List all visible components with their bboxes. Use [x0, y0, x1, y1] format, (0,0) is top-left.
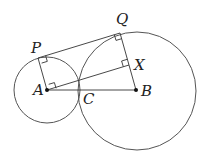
label-p: P	[30, 39, 42, 57]
label-a: A	[31, 81, 44, 99]
geometry-diagram: P Q X A B C	[0, 0, 208, 160]
label-q: Q	[116, 10, 128, 28]
diagram-canvas: P Q X A B C	[0, 0, 208, 160]
segment-ax	[47, 65, 129, 90]
label-x: X	[133, 56, 146, 74]
point-a	[45, 88, 49, 92]
label-b: B	[140, 82, 152, 100]
label-c: C	[83, 90, 95, 108]
point-b	[134, 88, 138, 92]
segment-pq	[38, 33, 120, 58]
